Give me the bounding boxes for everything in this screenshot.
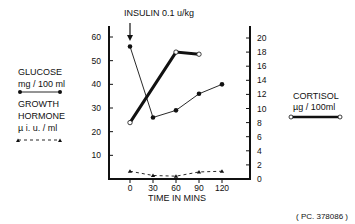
x-tick-label: 90 (194, 183, 204, 193)
left-tick-label: 40 (92, 79, 102, 89)
right-tick-label: 12 (257, 89, 267, 99)
glucose-point (151, 115, 156, 120)
legend-glucose-title: GLUCOSE (18, 67, 62, 77)
right-tick-label: 20 (257, 33, 267, 43)
x-tick-label: 60 (171, 183, 181, 193)
insulin-arrow-icon (127, 23, 133, 41)
series-growth-hormone (128, 169, 224, 178)
x-axis-ticks: 0306090120 (128, 179, 230, 193)
x-tick-label: 120 (215, 183, 229, 193)
cortisol-point (128, 120, 132, 124)
left-tick-label: 30 (92, 103, 102, 113)
glucose-point (220, 82, 225, 87)
x-tick-label: 30 (148, 183, 158, 193)
right-tick-label: 0 (257, 174, 262, 184)
footnote: ( PC. 378086 ) (296, 212, 348, 221)
left-tick-label: 60 (92, 32, 102, 42)
right-tick-label: 16 (257, 61, 267, 71)
cortisol-point (174, 50, 178, 54)
right-tick-label: 18 (257, 47, 267, 57)
legend-cortisol-title: CORTISOL (293, 91, 339, 101)
right-tick-label: 8 (257, 118, 262, 128)
legend-gh-units: µ i. u. / ml (18, 123, 57, 133)
growth-hormone-point (197, 170, 201, 174)
right-tick-label: 4 (257, 146, 262, 156)
glucose-point (197, 92, 202, 97)
legend-cortisol-swatch (289, 115, 342, 119)
legend-cortisol-units: µg / 100ml (293, 102, 335, 112)
series-glucose (128, 44, 225, 120)
right-tick-label: 14 (257, 75, 267, 85)
chart: 102030405060 02468101214161820 030609012… (0, 0, 355, 224)
glucose-point (174, 108, 179, 113)
legend-glucose-swatch (18, 90, 62, 94)
right-tick-label: 10 (257, 104, 267, 114)
glucose-line (130, 46, 222, 117)
glucose-point (128, 44, 133, 49)
series-layer (128, 44, 225, 178)
legend-gh-title-2: HORMONE (18, 111, 65, 121)
growth-hormone-point (128, 169, 132, 173)
left-tick-label: 10 (92, 150, 102, 160)
cortisol-point (197, 52, 201, 56)
insulin-annotation: INSULIN 0.1 u/kg (124, 8, 194, 18)
legend-glucose-units: mg / 100 ml (18, 79, 65, 89)
right-tick-label: 2 (257, 160, 262, 170)
right-tick-label: 6 (257, 132, 262, 142)
x-axis-label: TIME IN MINS (148, 193, 206, 203)
cortisol-line (130, 52, 199, 123)
legend-gh-swatch (16, 139, 62, 143)
legend-gh-title-1: GROWTH (18, 99, 59, 109)
left-tick-label: 50 (92, 56, 102, 66)
left-tick-label: 20 (92, 127, 102, 137)
x-tick-label: 0 (128, 183, 133, 193)
